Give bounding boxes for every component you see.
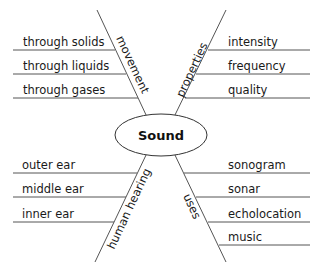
detail-label: echolocation (228, 207, 301, 221)
detail-label: through liquids (23, 59, 109, 73)
detail-label: sonogram (228, 158, 286, 172)
detail-label: sonar (228, 182, 260, 196)
detail-label: quality (228, 83, 268, 97)
center-label: Sound (138, 128, 184, 143)
detail-label: inner ear (22, 207, 74, 221)
detail-label: intensity (228, 35, 278, 49)
branch-label-uses: uses (180, 191, 204, 221)
detail-label: through solids (23, 35, 105, 49)
detail-label: outer ear (22, 158, 75, 172)
branch-label-human-hearing: human hearing (104, 166, 154, 251)
detail-label: through gases (23, 83, 105, 97)
detail-label: frequency (228, 59, 286, 73)
spider-map: Sound movement properties human hearing … (0, 0, 320, 269)
detail-label: middle ear (22, 182, 84, 196)
branch-label-properties: properties (173, 40, 210, 99)
detail-label: music (228, 230, 262, 244)
